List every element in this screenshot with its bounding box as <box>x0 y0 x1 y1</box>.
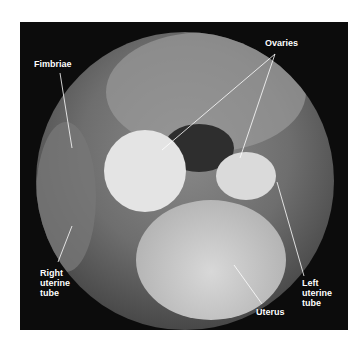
right-tube-tissue <box>36 122 96 272</box>
label-uterus: Uterus <box>256 307 285 317</box>
label-left-uterine-tube: Left uterine tube <box>302 278 332 308</box>
label-fimbriae: Fimbriae <box>34 59 72 69</box>
endoscope-field <box>36 32 334 330</box>
left-ovary <box>216 152 276 200</box>
label-right-uterine-tube: Right uterine tube <box>40 268 70 298</box>
label-ovaries: Ovaries <box>265 38 298 48</box>
right-ovary <box>104 130 186 212</box>
uterus-body <box>136 200 286 320</box>
